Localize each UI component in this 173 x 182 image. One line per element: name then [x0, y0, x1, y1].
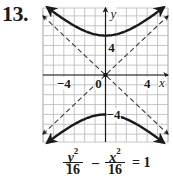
denominator: 16 [104, 163, 126, 177]
equation: y2 16 – x2 16 = 1 [62, 146, 162, 182]
minus-operator: – [92, 155, 99, 171]
fraction-y-term: y2 16 [62, 146, 84, 177]
exponent: 2 [116, 146, 121, 156]
equals-one: = 1 [132, 155, 150, 171]
denominator: 16 [62, 163, 84, 177]
y-tick-label: 4 [108, 40, 115, 55]
x-tick-label: 4 [144, 76, 151, 91]
x-tick-label: −4 [57, 76, 71, 91]
center-point [104, 73, 108, 77]
fraction-x-term: x2 16 [104, 146, 126, 177]
axes [43, 8, 168, 142]
exponent: 2 [74, 146, 79, 156]
y-axis-label: y [109, 6, 117, 21]
y-tick-label: −4 [107, 107, 121, 122]
x-tick-label-0: 0 [95, 76, 102, 91]
hyperbola-plot: −4044−4xy [0, 0, 173, 146]
x-axis-label: x [158, 75, 165, 90]
